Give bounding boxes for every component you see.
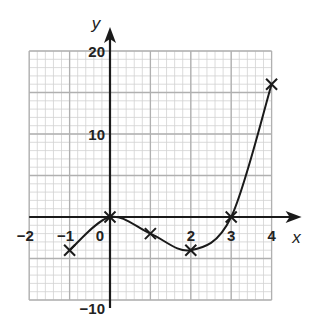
- x-tick-label: 3: [227, 227, 235, 244]
- x-axis-label: x: [291, 228, 301, 247]
- y-tick-label: −10: [80, 300, 105, 316]
- x-tick-label: 4: [267, 227, 276, 244]
- x-tick-label: 0: [96, 227, 104, 244]
- y-tick-label: 20: [88, 43, 105, 60]
- x-tick-label: 2: [187, 227, 195, 244]
- grid-major: [29, 51, 271, 300]
- x-tick-label: −2: [17, 227, 34, 244]
- y-tick-label: 10: [88, 126, 105, 143]
- function-graph: −2−102342010−10xy: [0, 0, 321, 316]
- y-axis-label: y: [91, 14, 102, 33]
- x-tick-label: −1: [57, 227, 74, 244]
